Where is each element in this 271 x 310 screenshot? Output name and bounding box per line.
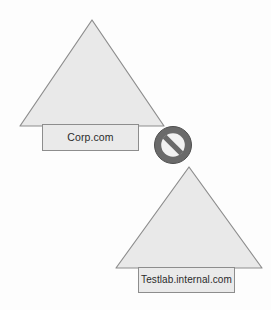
diagram-graphics xyxy=(0,0,271,310)
domain-triangle-testlab[interactable] xyxy=(116,167,262,268)
no-entry-icon[interactable] xyxy=(155,127,192,164)
diagram-canvas: Corp.com Testlab.internal.com xyxy=(0,0,271,310)
domain-triangle-corp[interactable] xyxy=(20,20,164,126)
domain-label-testlab[interactable]: Testlab.internal.com xyxy=(138,267,235,293)
domain-label-corp[interactable]: Corp.com xyxy=(42,124,139,151)
